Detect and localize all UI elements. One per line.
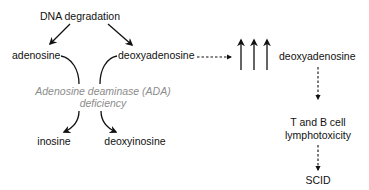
dna-degradation-label: DNA degradation bbox=[40, 10, 120, 22]
inosine-label: inosine bbox=[37, 135, 70, 147]
ada-deficiency-diagram: DNA degradation adenosine deoxyadenosine… bbox=[0, 0, 369, 190]
ada-enzyme-label: Adenosine deaminase (ADA) bbox=[34, 85, 170, 97]
curve-deoxyadenosine-to-ada bbox=[100, 56, 117, 84]
deoxyadenosine-label: deoxyadenosine bbox=[118, 49, 195, 61]
arrow-to-adenosine bbox=[50, 24, 70, 44]
arrow-to-deoxyadenosine bbox=[108, 24, 132, 45]
lymphotoxicity-label: lymphotoxicity bbox=[285, 129, 352, 141]
accumulated-deoxyadenosine-label: deoxyadenosine bbox=[279, 50, 356, 62]
adenosine-label: adenosine bbox=[12, 49, 61, 61]
curve-adenosine-to-ada bbox=[61, 56, 79, 84]
scid-label: SCID bbox=[305, 174, 331, 186]
ada-deficiency-label: deficiency bbox=[80, 97, 127, 109]
deoxyinosine-label: deoxyinosine bbox=[104, 135, 165, 147]
arrow-to-inosine bbox=[64, 111, 79, 132]
arrow-to-deoxyinosine bbox=[101, 111, 116, 132]
t-b-cell-label: T and B cell bbox=[290, 116, 345, 128]
